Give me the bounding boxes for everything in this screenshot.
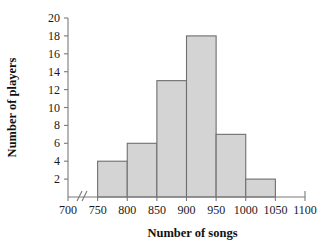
x-tick-label: 700: [59, 203, 77, 217]
y-axis-title: Number of players: [5, 57, 19, 157]
x-tick-label: 1050: [263, 203, 287, 217]
x-tick-label: 900: [178, 203, 196, 217]
y-tick-label: 4: [54, 154, 60, 168]
y-tick-label: 10: [48, 101, 60, 115]
x-axis-title: Number of songs: [147, 226, 237, 240]
y-tick-label: 12: [48, 83, 60, 97]
axis-break-slash: [82, 191, 87, 201]
axis-break-mark: [77, 191, 87, 201]
x-tick-label: 750: [89, 203, 107, 217]
y-axis: 2468101214161820: [48, 11, 68, 197]
histogram-bar: [246, 179, 276, 197]
histogram-bar: [216, 134, 246, 197]
y-tick-label: 2: [54, 172, 60, 186]
histogram-bar: [157, 81, 187, 197]
histogram-bar: [98, 161, 128, 197]
y-tick-label: 18: [48, 29, 60, 43]
histogram-bar: [187, 36, 217, 197]
histogram-bar: [127, 143, 157, 197]
x-tick-label: 1000: [234, 203, 258, 217]
x-tick-label: 1100: [293, 203, 317, 217]
x-tick-label: 800: [118, 203, 136, 217]
y-tick-label: 8: [54, 118, 60, 132]
y-tick-label: 6: [54, 136, 60, 150]
x-tick-label: 850: [148, 203, 166, 217]
x-tick-label: 950: [207, 203, 225, 217]
y-tick-label: 16: [48, 47, 60, 61]
y-tick-label: 14: [48, 65, 60, 79]
axis-break-slash: [77, 191, 82, 201]
y-tick-label: 20: [48, 11, 60, 25]
chart-canvas: 2468101214161820700750800850900950100010…: [0, 0, 324, 249]
bars-group: [98, 36, 276, 197]
histogram-figure: 2468101214161820700750800850900950100010…: [0, 0, 324, 249]
